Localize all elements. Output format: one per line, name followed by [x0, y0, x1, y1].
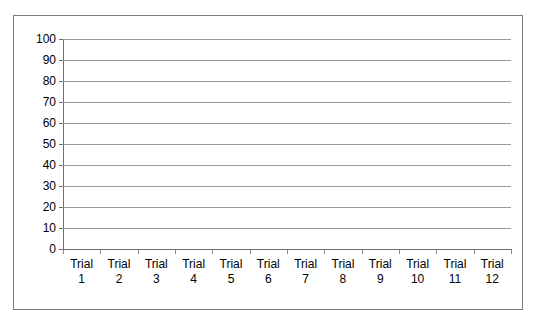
x-axis-category-label-number: 11: [436, 272, 473, 287]
y-axis-tick-label: 100: [16, 33, 56, 45]
x-axis-category-label-name: Trial: [63, 257, 100, 272]
x-axis-category-label-name: Trial: [436, 257, 473, 272]
gridline: [63, 60, 511, 61]
y-axis-tick-label: 70: [16, 96, 56, 108]
y-axis-tick-mark: [59, 123, 63, 124]
y-axis-tick-label: 50: [16, 138, 56, 150]
x-axis-category-label-number: 2: [100, 272, 137, 287]
x-axis-category-label-number: 10: [399, 272, 436, 287]
gridline: [63, 102, 511, 103]
x-axis-tick-mark: [362, 250, 363, 254]
gridline: [63, 228, 511, 229]
plot-area: [63, 39, 511, 249]
x-axis-tick-mark: [436, 250, 437, 254]
y-axis-tick-label: 90: [16, 54, 56, 66]
x-axis-tick-labels: Trial1Trial2Trial3Trial4Trial5Trial6Tria…: [63, 257, 511, 301]
y-axis-tick-label: 10: [16, 222, 56, 234]
x-axis-tick-mark: [324, 250, 325, 254]
gridline: [63, 39, 511, 40]
y-axis-tick-mark: [59, 207, 63, 208]
x-axis-category-label-name: Trial: [362, 257, 399, 272]
x-axis-category-label-number: 5: [212, 272, 249, 287]
gridline: [63, 186, 511, 187]
x-axis-category-label-name: Trial: [212, 257, 249, 272]
y-axis-tick-labels: 1009080706050403020100: [14, 16, 56, 311]
x-axis-category-label-name: Trial: [100, 257, 137, 272]
x-axis-category-label: Trial11: [436, 257, 473, 301]
gridline: [63, 144, 511, 145]
x-axis-tick-mark: [250, 250, 251, 254]
x-axis-tick-mark: [138, 250, 139, 254]
y-axis-tick-label: 30: [16, 180, 56, 192]
x-axis-category-label: Trial6: [250, 257, 287, 301]
x-axis-tick-mark: [212, 250, 213, 254]
y-axis-tick-mark: [59, 228, 63, 229]
y-axis-tick-mark: [59, 39, 63, 40]
y-axis-tick-mark: [59, 165, 63, 166]
gridline: [63, 123, 511, 124]
y-axis-tick-mark: [59, 186, 63, 187]
y-axis-tick-mark: [59, 144, 63, 145]
x-axis-tick-mark: [63, 250, 64, 254]
x-axis-category-label: Trial7: [287, 257, 324, 301]
x-axis-category-label: Trial9: [362, 257, 399, 301]
y-axis-tick-mark: [59, 60, 63, 61]
x-axis-category-label-name: Trial: [175, 257, 212, 272]
x-axis-category-label-name: Trial: [399, 257, 436, 272]
x-axis-tick-mark: [399, 250, 400, 254]
x-axis-category-label-name: Trial: [287, 257, 324, 272]
x-axis-category-label: Trial3: [138, 257, 175, 301]
x-axis-category-label: Trial12: [474, 257, 511, 301]
x-axis-tick-mark: [175, 250, 176, 254]
x-axis-category-label: Trial4: [175, 257, 212, 301]
y-axis-tick-label: 20: [16, 201, 56, 213]
x-axis-category-label-number: 8: [324, 272, 361, 287]
x-axis-category-label-number: 4: [175, 272, 212, 287]
y-axis-tick-label: 0: [16, 243, 56, 255]
chart-frame: 1009080706050403020100 Trial1Trial2Trial…: [13, 15, 523, 310]
x-axis-category-label-name: Trial: [474, 257, 511, 272]
x-axis-category-label-number: 6: [250, 272, 287, 287]
x-axis-tick-mark: [511, 250, 512, 254]
y-axis-tick-mark: [59, 81, 63, 82]
x-axis-tick-mark: [100, 250, 101, 254]
gridline: [63, 207, 511, 208]
x-axis-category-label: Trial2: [100, 257, 137, 301]
x-axis-category-label: Trial10: [399, 257, 436, 301]
x-axis-category-label-number: 12: [474, 272, 511, 287]
x-axis-tick-mark: [474, 250, 475, 254]
x-axis-category-label: Trial5: [212, 257, 249, 301]
y-axis-tick-mark: [59, 102, 63, 103]
x-axis-category-label: Trial8: [324, 257, 361, 301]
y-axis-tick-label: 80: [16, 75, 56, 87]
x-axis-category-label: Trial1: [63, 257, 100, 301]
x-axis-category-label-number: 3: [138, 272, 175, 287]
gridline: [63, 165, 511, 166]
x-axis-category-label-number: 1: [63, 272, 100, 287]
gridline: [63, 81, 511, 82]
x-axis-category-label-name: Trial: [324, 257, 361, 272]
x-axis-category-label-number: 7: [287, 272, 324, 287]
x-axis-category-label-name: Trial: [250, 257, 287, 272]
x-axis-category-label-number: 9: [362, 272, 399, 287]
x-axis-category-label-name: Trial: [138, 257, 175, 272]
x-axis-tick-mark: [287, 250, 288, 254]
y-axis-tick-label: 60: [16, 117, 56, 129]
y-axis-tick-label: 40: [16, 159, 56, 171]
